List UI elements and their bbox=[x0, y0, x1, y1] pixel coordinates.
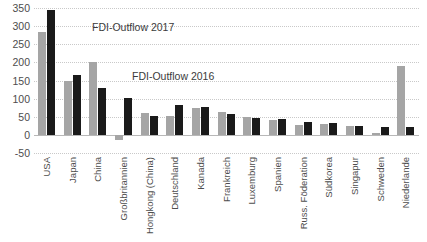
x-label-cell: Hongkong (China) bbox=[137, 155, 163, 242]
bar-group bbox=[60, 8, 86, 153]
y-tick-label: 350 bbox=[0, 3, 30, 14]
bar-group bbox=[291, 8, 317, 153]
x-tick-label: Niederlande bbox=[401, 157, 411, 208]
bar-2016 bbox=[89, 62, 97, 135]
x-label-cell: Kanada bbox=[188, 155, 214, 242]
bar-group bbox=[34, 8, 60, 153]
x-tick-label: Spanien bbox=[273, 157, 283, 192]
x-label-cell: Frankreich bbox=[214, 155, 240, 242]
bar-2017 bbox=[73, 75, 81, 135]
y-tick-label: 100 bbox=[0, 93, 30, 104]
bar-group bbox=[393, 8, 419, 153]
bar-2017 bbox=[381, 127, 389, 135]
bar-2016 bbox=[346, 126, 354, 135]
bar-2016 bbox=[192, 108, 200, 135]
bar-2016 bbox=[166, 116, 174, 134]
bar-group bbox=[239, 8, 265, 153]
x-tick-label: Luxemburg bbox=[247, 157, 257, 205]
bar-2016 bbox=[397, 66, 405, 135]
bar-2016 bbox=[243, 117, 251, 135]
y-tick-label: 300 bbox=[0, 21, 30, 32]
y-tick-label: 200 bbox=[0, 57, 30, 68]
x-tick-label: Großbritannien bbox=[119, 157, 129, 220]
x-tick-label: USA bbox=[42, 157, 52, 177]
x-label-cell: Russ. Föderation bbox=[291, 155, 317, 242]
x-tick-label: China bbox=[93, 157, 103, 182]
bar-2017 bbox=[329, 123, 337, 135]
bar-2017 bbox=[150, 116, 158, 135]
bar-2017 bbox=[98, 88, 106, 135]
plot-area: FDI-Outflow 2017 FDI-Outflow 2016 bbox=[34, 8, 419, 153]
x-tick-label: Russ. Föderation bbox=[299, 157, 309, 229]
bar-2017 bbox=[47, 10, 55, 135]
bar-2017 bbox=[124, 98, 132, 135]
bar-2016 bbox=[295, 125, 303, 135]
x-label-cell: Großbritannien bbox=[111, 155, 137, 242]
bar-2017 bbox=[278, 119, 286, 135]
bar-2017 bbox=[355, 126, 363, 135]
fdi-outflow-bar-chart: 350300250200150100500-50 FDI-Outflow 201… bbox=[0, 0, 427, 242]
x-label-cell: China bbox=[85, 155, 111, 242]
x-tick-label: Frankreich bbox=[222, 157, 232, 202]
x-tick-label: Japan bbox=[68, 157, 78, 183]
bar-2016 bbox=[64, 81, 72, 135]
y-tick-label: 0 bbox=[0, 130, 30, 141]
series-annotation-2017: FDI-Outflow 2017 bbox=[92, 22, 174, 33]
x-tick-label: Deutschland bbox=[170, 157, 180, 210]
bar-group bbox=[368, 8, 394, 153]
gridline--50 bbox=[34, 153, 419, 154]
x-label-cell: Südkorea bbox=[316, 155, 342, 242]
x-label-cell: Luxemburg bbox=[239, 155, 265, 242]
x-label-cell: Schweden bbox=[368, 155, 394, 242]
bar-2016 bbox=[38, 32, 46, 135]
x-label-cell: USA bbox=[34, 155, 60, 242]
x-axis-labels: USAJapanChinaGroßbritannienHongkong (Chi… bbox=[34, 155, 419, 242]
x-label-cell: Niederlande bbox=[393, 155, 419, 242]
x-tick-label: Hongkong (China) bbox=[145, 157, 155, 234]
y-axis: 350300250200150100500-50 bbox=[0, 8, 30, 153]
x-tick-label: Südkorea bbox=[324, 157, 334, 198]
bar-2017 bbox=[304, 122, 312, 135]
x-label-cell: Spanien bbox=[265, 155, 291, 242]
bar-2016 bbox=[115, 135, 123, 140]
bar-2017 bbox=[252, 118, 260, 135]
y-tick-label: 150 bbox=[0, 75, 30, 86]
bar-2017 bbox=[406, 127, 414, 135]
bar-2016 bbox=[218, 112, 226, 135]
series-annotation-2016: FDI-Outflow 2016 bbox=[132, 71, 214, 82]
bar-2016 bbox=[320, 124, 328, 135]
bar-2016 bbox=[269, 120, 277, 135]
x-tick-label: Kanada bbox=[196, 157, 206, 190]
bar-2016 bbox=[372, 133, 380, 135]
bar-2017 bbox=[201, 107, 209, 135]
bar-group bbox=[342, 8, 368, 153]
x-tick-label: Singapur bbox=[350, 157, 360, 195]
y-tick-label: -50 bbox=[0, 148, 30, 159]
x-label-cell: Singapur bbox=[342, 155, 368, 242]
bar-group bbox=[265, 8, 291, 153]
x-label-cell: Deutschland bbox=[162, 155, 188, 242]
y-tick-label: 50 bbox=[0, 112, 30, 123]
bar-group bbox=[214, 8, 240, 153]
bar-2016 bbox=[141, 113, 149, 135]
x-tick-label: Schweden bbox=[376, 157, 386, 201]
bar-2017 bbox=[175, 105, 183, 135]
bar-2017 bbox=[227, 114, 235, 135]
x-label-cell: Japan bbox=[60, 155, 86, 242]
y-tick-label: 250 bbox=[0, 39, 30, 50]
bar-group bbox=[316, 8, 342, 153]
